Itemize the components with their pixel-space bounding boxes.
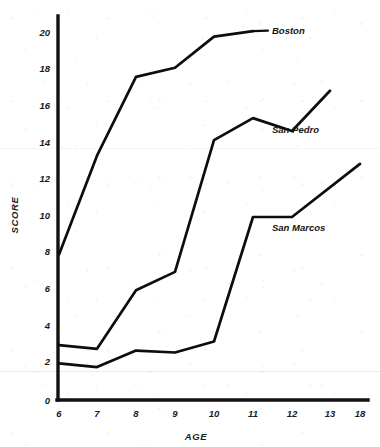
x-tick-label: 11 bbox=[248, 408, 258, 419]
y-tick-label: 6 bbox=[45, 283, 51, 294]
series-line-boston bbox=[59, 31, 253, 254]
x-tick-label: 12 bbox=[287, 408, 298, 419]
series-label-san-marcos: San Marcos bbox=[272, 222, 325, 233]
y-tick-label: 10 bbox=[39, 210, 50, 221]
x-tick-label: 9 bbox=[172, 408, 178, 419]
y-tick-label: 2 bbox=[44, 356, 51, 367]
y-tick-label: 20 bbox=[38, 27, 50, 38]
boston-label-leader bbox=[253, 31, 268, 32]
x-tick-label: 18 bbox=[355, 408, 366, 419]
y-tick-label: 14 bbox=[39, 137, 50, 148]
x-tick-label: 7 bbox=[94, 408, 100, 419]
x-axis-title: AGE bbox=[184, 431, 207, 442]
y-tick-label: 0 bbox=[45, 395, 51, 406]
x-tick-label: 10 bbox=[209, 408, 220, 419]
y-tick-label: 4 bbox=[44, 320, 51, 331]
y-axis-title: SCORE bbox=[9, 197, 20, 234]
chart-canvas: 0 2 4 6 8 10 12 14 16 18 20 6 7 8 9 10 1… bbox=[0, 0, 380, 447]
y-tick-label: 18 bbox=[39, 63, 50, 74]
y-tick-label: 12 bbox=[39, 173, 50, 184]
y-tick-labels: 0 2 4 6 8 10 12 14 16 18 20 bbox=[38, 27, 50, 406]
x-tick-label: 6 bbox=[56, 408, 62, 419]
y-tick-label: 8 bbox=[45, 246, 51, 257]
x-tick-label: 8 bbox=[133, 408, 139, 419]
y-tick-label: 16 bbox=[39, 100, 50, 111]
line-chart: 0 2 4 6 8 10 12 14 16 18 20 6 7 8 9 10 1… bbox=[0, 0, 380, 447]
series-label-boston: Boston bbox=[272, 25, 305, 36]
series-label-san-pedro: San Pedro bbox=[272, 124, 319, 135]
x-tick-label: 13 bbox=[325, 408, 336, 419]
x-tick-labels: 6 7 8 9 10 11 12 13 18 bbox=[56, 408, 366, 419]
